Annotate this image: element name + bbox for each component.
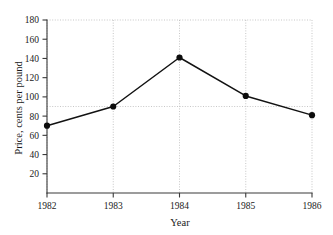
- y-tick-label: 80: [30, 112, 40, 122]
- x-tick-label: 1985: [236, 201, 255, 211]
- y-tick-label: 120: [25, 73, 40, 83]
- data-point-marker: [44, 123, 50, 129]
- data-point-marker: [243, 93, 249, 99]
- y-tick-label: 140: [25, 54, 40, 64]
- x-tick-label: 1982: [38, 201, 57, 211]
- y-tick-label: 100: [25, 92, 40, 102]
- price-per-pound-line-chart: 18016014012010080604020 1982198319841985…: [0, 0, 333, 235]
- x-axis-ticks-group: 19821983198419851986: [38, 193, 322, 211]
- x-tick-label: 1983: [104, 201, 123, 211]
- x-tick-label: 1986: [303, 201, 322, 211]
- gridlines-group: [47, 20, 312, 193]
- x-tick-label: 1984: [170, 201, 189, 211]
- y-tick-label: 180: [25, 15, 40, 25]
- data-point-marker: [110, 103, 116, 109]
- data-point-marker: [309, 112, 315, 118]
- y-tick-label: 60: [30, 131, 40, 141]
- y-axis-title: Price, cents per pound: [13, 61, 24, 155]
- data-point-marker: [176, 54, 182, 60]
- y-tick-label: 20: [30, 169, 40, 179]
- y-tick-label: 160: [25, 35, 40, 45]
- chart-canvas: 18016014012010080604020 1982198319841985…: [0, 0, 333, 235]
- y-axis-ticks-group: 18016014012010080604020: [25, 15, 47, 179]
- x-axis-title: Year: [170, 217, 190, 228]
- y-tick-label: 40: [30, 150, 40, 160]
- data-markers-group: [44, 54, 315, 128]
